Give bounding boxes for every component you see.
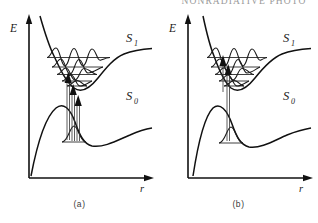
state-label-s1-a: S 1: [126, 31, 138, 48]
figure-potential-energy-curves: NONRADIATIVE PHOTO: [0, 0, 318, 223]
svg-text:S: S: [283, 31, 290, 45]
curve-s0-b: [193, 106, 311, 176]
svg-text:1: 1: [291, 39, 295, 48]
panel-a-caption: (a): [0, 199, 159, 209]
x-axis-label-a: r: [140, 183, 145, 194]
svg-text:1: 1: [134, 39, 138, 48]
state-label-s1-b: S 1: [283, 31, 295, 48]
svg-text:S: S: [126, 89, 133, 103]
svg-text:S: S: [283, 89, 290, 103]
y-axis-label-b: E: [168, 22, 176, 34]
curve-s0-a: [31, 106, 152, 176]
svg-text:S: S: [126, 31, 133, 45]
wavefunction-s0-b: [219, 127, 243, 143]
panel-a: E r S 1 S 0 (a): [0, 0, 159, 223]
panel-b-caption: (b): [159, 199, 318, 209]
wavefunction-s0-a: [62, 126, 86, 142]
panel-a-plot: E r S 1 S 0: [0, 0, 159, 200]
panel-b-plot: E r S 1 S 0: [159, 0, 318, 200]
state-label-s0-a: S 0: [126, 89, 138, 106]
y-axis-label-a: E: [9, 22, 17, 34]
panel-b: E r S 1 S 0 (b): [159, 0, 318, 223]
svg-text:0: 0: [134, 97, 138, 106]
state-label-s0-b: S 0: [283, 89, 295, 106]
svg-text:0: 0: [291, 97, 295, 106]
x-axis-label-b: r: [299, 183, 304, 194]
